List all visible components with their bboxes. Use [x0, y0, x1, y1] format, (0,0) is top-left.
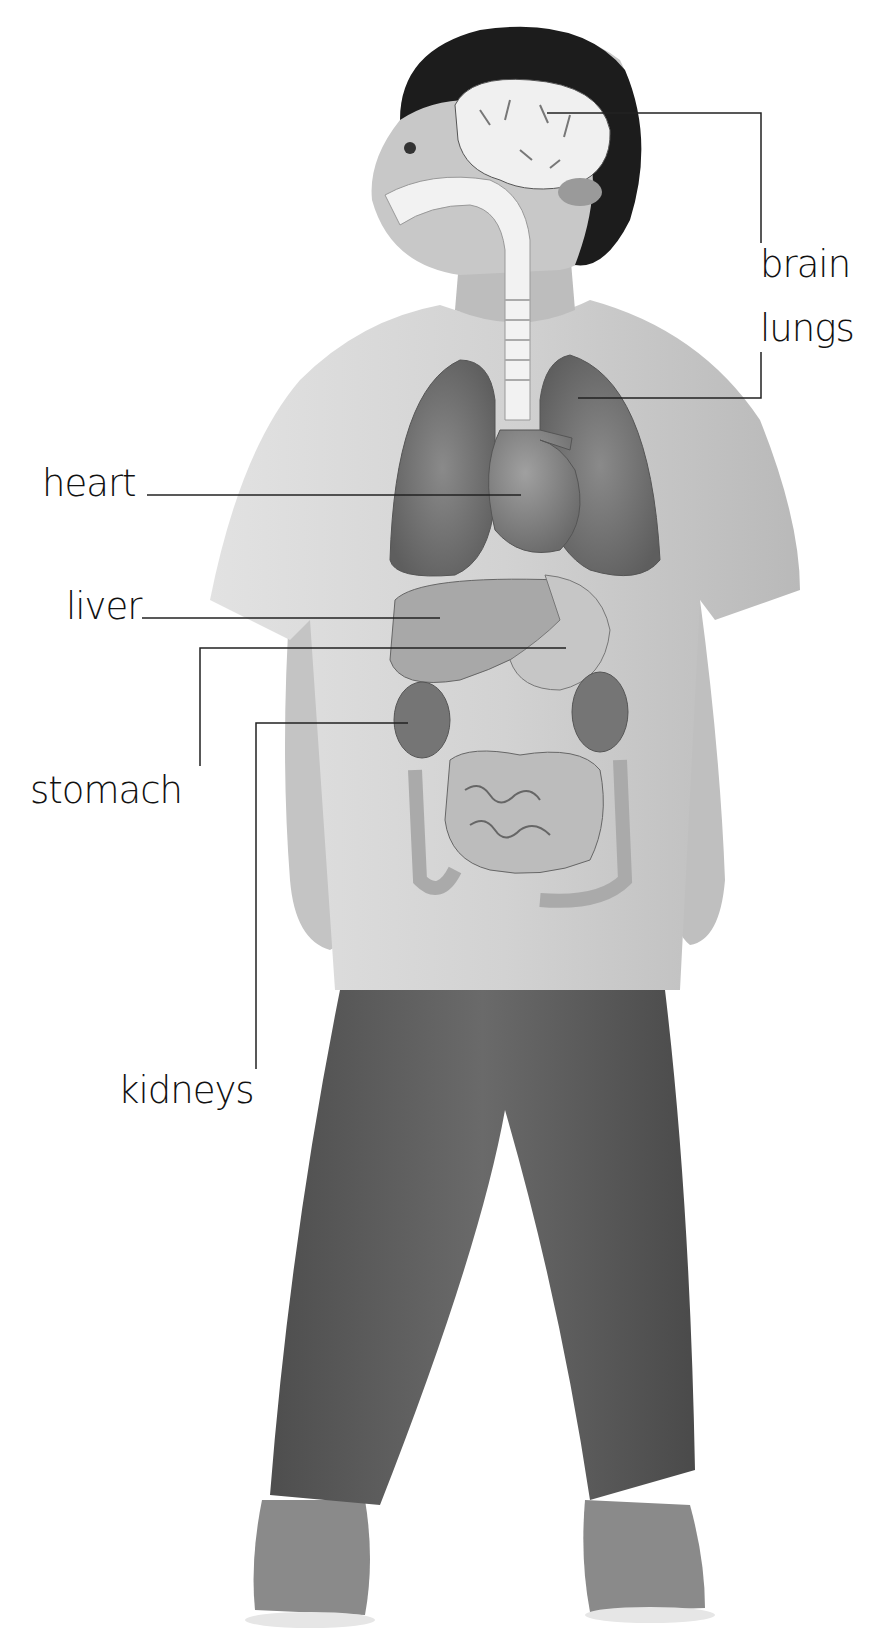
right-kidney [572, 672, 628, 752]
left-kidney [394, 682, 450, 758]
boots [245, 1500, 715, 1628]
label-lungs: lungs [760, 310, 854, 347]
jeans [270, 990, 695, 1505]
label-brain: brain [760, 246, 850, 283]
label-heart: heart [42, 465, 136, 502]
label-stomach: stomach [30, 772, 182, 809]
cerebellum [558, 178, 602, 206]
eye [404, 142, 416, 154]
heart-organ [489, 430, 580, 553]
anatomy-diagram: brain lungs heart liver stomach kidneys [0, 0, 890, 1646]
small-intestine [445, 751, 603, 873]
label-liver: liver [66, 588, 141, 625]
boy-figure [0, 0, 890, 1646]
label-kidneys: kidneys [118, 1072, 254, 1109]
